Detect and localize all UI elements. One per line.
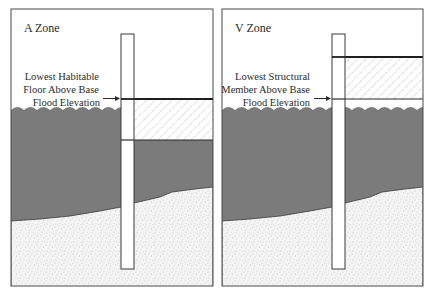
callout-line: Floor Above Base [23, 83, 99, 96]
flood-zone-elevation-diagram: A Zone Lowest Habitable Floor Above Base… [0, 0, 430, 303]
pile [332, 34, 345, 269]
v-zone-callout: Lowest Structural Member Above Base Floo… [221, 70, 310, 109]
callout-line: Flood Elevation [23, 96, 100, 109]
v-zone-title: V Zone [235, 21, 271, 36]
callout-line: Member Above Base [221, 83, 310, 96]
diagram-canvas [0, 0, 430, 303]
callout-line: Lowest Structural [221, 70, 310, 83]
pile [121, 34, 134, 269]
a-zone-title: A Zone [24, 21, 60, 36]
callout-line: Lowest Habitable [23, 70, 99, 83]
callout-line: Flood Elevation [221, 96, 310, 109]
a-zone-panel [11, 9, 219, 290]
a-zone-callout: Lowest Habitable Floor Above Base Flood … [23, 70, 99, 109]
v-zone-panel [222, 9, 430, 290]
